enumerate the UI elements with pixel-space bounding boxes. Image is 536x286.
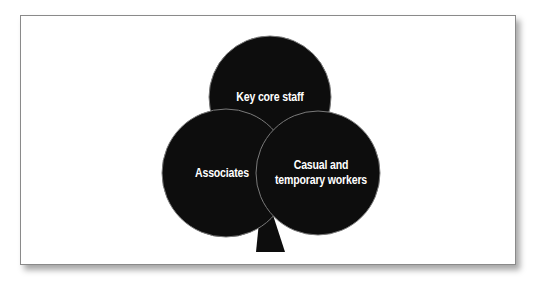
- label-casual-line1: Casual and: [269, 158, 373, 173]
- tree-diagram: [0, 0, 536, 286]
- label-casual-line2: temporary workers: [269, 173, 373, 188]
- label-casual-temporary: Casual and temporary workers: [269, 158, 373, 188]
- label-key-core-staff: Key core staff: [226, 90, 314, 105]
- label-associates: Associates: [185, 166, 259, 181]
